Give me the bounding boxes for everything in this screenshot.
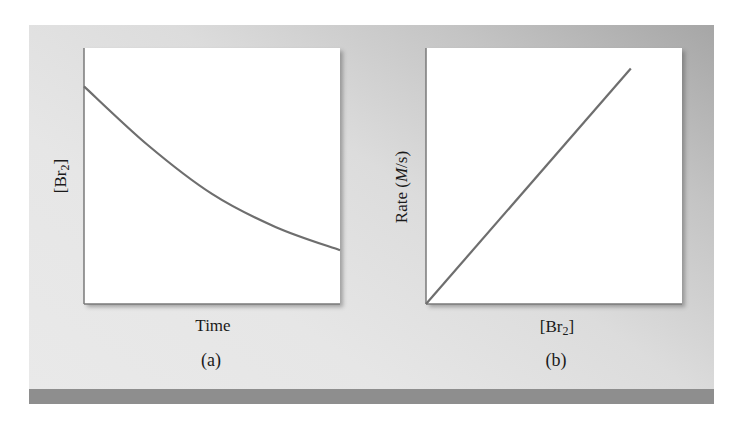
figure-bottom-bar <box>29 389 714 404</box>
plot-b-linear-line <box>426 68 631 304</box>
plot-a-decay-curve <box>84 86 340 250</box>
plot-a-x-axis-label: Time <box>195 317 230 334</box>
plot-b-canvas <box>426 48 682 304</box>
plot-b-x-axis-label: [Br2] <box>540 318 574 335</box>
plot-a-y-axis-label: [Br2] <box>52 159 69 193</box>
plot-a-concentration-vs-time <box>84 48 340 304</box>
plot-a-panel-letter: (a) <box>201 351 221 369</box>
plot-a-canvas <box>84 48 340 304</box>
plot-b-y-axis-label: Rate (M/s) <box>393 151 410 223</box>
plot-b-panel-letter: (b) <box>546 351 567 369</box>
plot-b-rate-vs-concentration <box>426 48 682 304</box>
